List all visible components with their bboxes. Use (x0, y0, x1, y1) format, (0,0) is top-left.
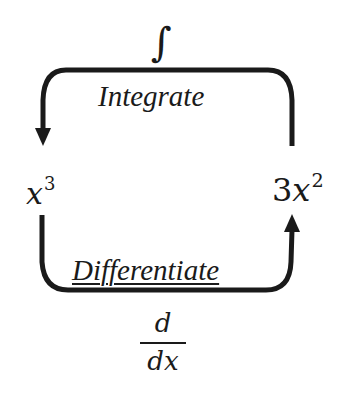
differentiate-arrowhead-icon (284, 214, 300, 232)
calculus-cycle-diagram: ∫ Integrate x3 3x2 Differentiate d dx (0, 0, 348, 395)
left-base: x (26, 176, 43, 211)
three-x-squared-expression: 3x2 (272, 171, 324, 206)
right-base: x (292, 171, 310, 209)
derivative-operator: d dx (140, 310, 186, 374)
integrate-label: Integrate (98, 82, 204, 111)
integral-symbol: ∫ (151, 22, 172, 62)
left-exponent: 3 (44, 173, 55, 194)
derivative-denominator: dx (140, 348, 186, 374)
integrate-arrowhead-icon (35, 128, 51, 146)
right-coefficient: 3 (272, 171, 292, 209)
differentiate-label: Differentiate (72, 256, 219, 285)
derivative-numerator: d (140, 310, 186, 336)
fraction-bar (140, 342, 186, 344)
right-exponent: 2 (311, 169, 323, 192)
x-cubed-expression: x3 (26, 175, 55, 209)
